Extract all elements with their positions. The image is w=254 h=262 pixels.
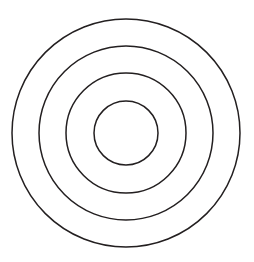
- figure-background: [0, 0, 254, 262]
- figure-canvas: [0, 0, 254, 262]
- concentric-circles-figure: [0, 0, 254, 262]
